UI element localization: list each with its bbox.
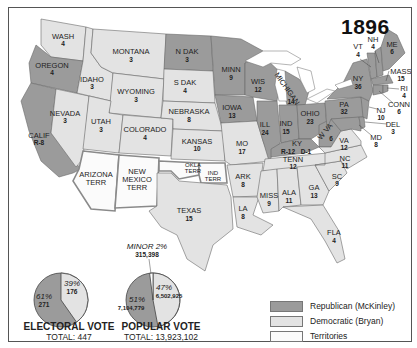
label-ind-terr-line2: TERR [205,176,222,182]
electoral-democratic-votes: 176 [67,288,78,295]
votes-utah: 3 [99,126,103,133]
votes-minn: 9 [229,74,233,81]
votes-michigan: 14 [287,98,295,105]
popular-democratic-pct: 47% [156,283,172,292]
votes-nc: 11 [342,162,349,169]
label-ky: KY [292,139,302,148]
popular-minor-pct: MINOR 2% [127,242,167,251]
label-minn: MINN [221,65,240,74]
label-ny: NY [353,74,363,83]
label-ill: ILL [260,120,270,129]
votes-sdak: 4 [183,87,187,94]
votes-sc: 9 [335,180,339,187]
votes-wash: 4 [61,40,65,47]
legend-swatch-republican [270,301,303,312]
votes-tenn: 12 [289,163,297,170]
label-ala: ALA [282,188,296,197]
votes-wyoming: 3 [134,96,138,103]
label-ind: IND [280,119,294,128]
us-election-map-1896: WASH 4 OREGON 4 CALIF R-8 IDAHO 3 NEVADA… [9,8,411,341]
votes-oregon: 4 [50,69,54,76]
votes-idaho: 3 [90,83,94,90]
popular-republican-pct: 51% [129,295,145,304]
popular-vote-total: TOTAL: 13,923,102 [106,332,216,342]
legend-label-territories: Territories [310,331,347,341]
label-ga: GA [309,183,320,192]
popular-democratic-votes: 6,502,925 [156,293,183,299]
popular-minor-votes: 315,398 [135,251,159,259]
minor-leader-line [149,259,151,274]
popular-vote-title: POPULAR VOTE [106,321,216,332]
label-fla: FLA [327,228,341,237]
votes-nj: 10 [377,114,385,121]
votes-ri: 4 [402,92,406,99]
votes-ohio: 23 [306,118,314,125]
state-texas [149,173,233,271]
label-okla-terr-line2: TERR [185,168,202,174]
label-wis: WIS [251,77,265,86]
legend-item-democratic: Democratic (Bryan) [270,314,395,328]
votes-mo: 17 [238,148,246,155]
votes-va: 12 [340,144,348,151]
popular-pie-democratic [153,273,180,327]
legend-item-territories: Territories [270,329,395,343]
label-texas: TEXAS [177,206,202,215]
votes-ny: 36 [354,83,362,90]
legend-swatch-territories [270,331,303,342]
votes-vt: 4 [356,51,360,58]
label-utah: UTAH [91,117,111,126]
label-mo: MO [236,139,248,148]
label-la: LA [238,204,247,213]
popular-vote-caption: POPULAR VOTE TOTAL: 13,923,102 [106,321,216,342]
label-wyoming: WYOMING [117,87,155,96]
votes-nevada: 3 [63,117,67,124]
votes-mass: 15 [397,75,405,82]
votes-conn: 6 [397,108,401,115]
votes-nebraska: 8 [187,116,191,123]
label-ark: ARK [235,172,250,181]
votes-ndak: 3 [185,56,189,63]
votes-pa: 32 [340,108,348,115]
votes-calif: R-8 [34,139,45,146]
votes-iowa: 13 [228,112,236,119]
label-montana: MONTANA [113,47,150,56]
votes-kansas: 10 [193,145,201,152]
electoral-vote-pie: 61% 271 39% 176 [34,273,88,327]
label-new-mexico-terr-line3: TERR [127,183,148,192]
votes-miss: 9 [267,200,271,207]
electoral-republican-pct: 61% [36,292,52,301]
votes-ky-democratic: D-1 [301,148,312,155]
votes-colorado: 4 [143,134,147,141]
votes-md: 8 [374,141,378,148]
votes-ky-republican: R-12 [281,148,295,155]
label-miss: MISS [260,191,278,200]
votes-la: 8 [241,213,245,220]
legend-item-republican: Republican (McKinley) [270,299,395,313]
votes-fla: 4 [332,237,336,244]
votes-del: 3 [391,128,395,135]
votes-wis: 12 [254,86,262,93]
map-frame: WASH 4 OREGON 4 CALIF R-8 IDAHO 3 NEVADA… [8,7,412,342]
label-ndak: N DAK [176,47,199,56]
electoral-democratic-pct: 39% [64,279,80,288]
votes-ga: 13 [310,192,318,199]
votes-ala: 11 [286,197,293,204]
legend-label-democratic: Democratic (Bryan) [310,316,383,326]
popular-republican-votes: 7,104,779 [118,305,145,311]
votes-ind: 15 [282,128,290,135]
legend-label-republican: Republican (McKinley) [310,301,395,311]
state-ri [383,85,388,93]
label-colorado: COLORADO [124,125,167,134]
label-arizona-terr-line2: TERR [86,178,107,187]
votes-wva: 6 [329,135,333,142]
label-nebraska: NEBRASKA [169,107,210,116]
votes-ill: 24 [261,129,269,136]
electoral-republican-votes: 271 [39,301,50,308]
map-title: 1896 [341,15,390,39]
popular-vote-pie: 51% 7,104,779 47% 6,502,925 MINOR 2% 315… [118,242,183,327]
votes-me: 6 [390,48,394,55]
label-vt: VT [353,42,363,51]
label-iowa: IOWA [222,103,242,112]
label-sdak: S DAK [174,78,197,87]
legend: Republican (McKinley) Democratic (Bryan)… [270,299,395,344]
